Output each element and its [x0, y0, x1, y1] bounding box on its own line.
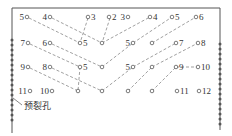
hole-delay-label: 6 [199, 12, 204, 22]
blast-hole [26, 41, 30, 45]
blast-hole [86, 15, 90, 19]
blast-hole [126, 15, 130, 19]
blast-hole [48, 65, 52, 69]
hole-delay-label: 8 [43, 62, 48, 72]
hole-delay-label: 4 [153, 12, 158, 22]
blast-hole [50, 89, 54, 93]
blast-hole [48, 41, 52, 45]
blast-hole [100, 89, 104, 93]
hole-delay-label: 5 [20, 12, 25, 22]
presplit-leader-line [13, 98, 22, 105]
v-cut-lines [29, 17, 198, 91]
blast-hole [100, 65, 104, 69]
blast-holes: 54323456765578985591011101112 [18, 12, 211, 96]
blast-hole [25, 15, 29, 19]
blast-hole [28, 89, 32, 93]
blast-hole [48, 15, 52, 19]
hole-delay-label: 3 [121, 12, 126, 22]
hole-delay-label: 6 [43, 38, 48, 48]
hole-delay-label: 5 [126, 62, 131, 72]
hole-delay-label: 11 [18, 86, 27, 96]
blast-hole [170, 15, 174, 19]
blasting-layout-diagram: 预裂孔 54323456765578985591011101112 [0, 0, 232, 136]
presplit-holes-left [11, 39, 14, 122]
hole-delay-label: 7 [179, 38, 184, 48]
blast-hole [76, 89, 80, 93]
hole-delay-label: 10 [201, 62, 211, 72]
blast-hole [150, 41, 154, 45]
blast-hole [150, 65, 154, 69]
hole-delay-label: 5 [83, 62, 88, 72]
blast-hole [196, 65, 200, 69]
blast-hole [131, 41, 135, 45]
hole-delay-label: 10 [40, 86, 50, 96]
blast-hole [100, 41, 104, 45]
blast-hole [197, 89, 201, 93]
blast-hole [174, 41, 178, 45]
hole-delay-label: 2 [112, 12, 117, 22]
presplit-holes-right [219, 43, 222, 126]
hole-delay-label: 12 [202, 86, 211, 96]
presplit-label: 预裂孔 [24, 101, 51, 111]
hole-delay-label: 7 [21, 38, 26, 48]
blast-hole [175, 89, 179, 93]
hole-delay-label: 5 [126, 38, 131, 48]
hole-delay-label: 4 [43, 12, 48, 22]
hole-delay-label: 5 [175, 12, 180, 22]
hole-delay-label: 11 [180, 86, 189, 96]
blast-hole [126, 89, 130, 93]
hole-delay-label: 8 [201, 38, 206, 48]
hole-delay-label: 5 [83, 38, 88, 48]
blast-hole [194, 15, 198, 19]
blast-hole [78, 41, 82, 45]
hole-delay-label: 9 [21, 62, 26, 72]
blast-hole [150, 89, 154, 93]
hole-delay-label: 9 [179, 62, 184, 72]
blast-hole [174, 65, 178, 69]
blast-hole [78, 65, 82, 69]
blast-hole [26, 65, 30, 69]
blast-hole [148, 15, 152, 19]
blast-hole [196, 41, 200, 45]
blast-hole [131, 65, 135, 69]
blast-hole [107, 15, 111, 19]
hole-delay-label: 3 [91, 12, 96, 22]
